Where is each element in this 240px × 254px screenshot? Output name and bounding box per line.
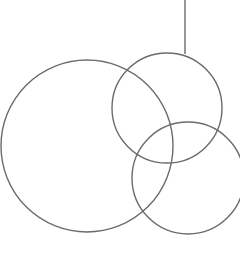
diagram-canvas: [0, 0, 240, 254]
diagram-svg: [0, 0, 240, 254]
bottom-right-circle: [132, 122, 240, 234]
top-right-circle: [112, 53, 222, 163]
large-left-circle: [1, 60, 173, 232]
